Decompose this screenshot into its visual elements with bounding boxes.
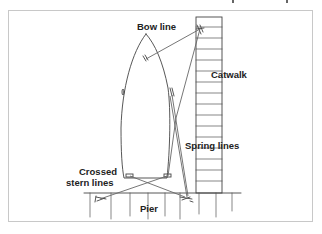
docking-diagram bbox=[0, 0, 322, 234]
bow-line bbox=[146, 29, 200, 59]
crossed-stern-lines-label-line2: stern lines bbox=[66, 178, 114, 188]
catwalk-planks bbox=[196, 27, 222, 181]
bow-line-label: Bow line bbox=[137, 22, 176, 32]
crossed-stern-lines-label-line1: Crossed bbox=[79, 167, 117, 177]
pier-cleat-right-icon bbox=[180, 197, 193, 202]
catwalk-label: Catwalk bbox=[211, 70, 247, 80]
pier-planks bbox=[90, 193, 232, 219]
spring-lines-label: Spring lines bbox=[185, 141, 239, 151]
starboard-cleat-icon bbox=[170, 88, 174, 96]
pier-label: Pier bbox=[140, 204, 158, 214]
port-cleat-icon bbox=[122, 89, 124, 95]
catwalk bbox=[196, 17, 222, 193]
